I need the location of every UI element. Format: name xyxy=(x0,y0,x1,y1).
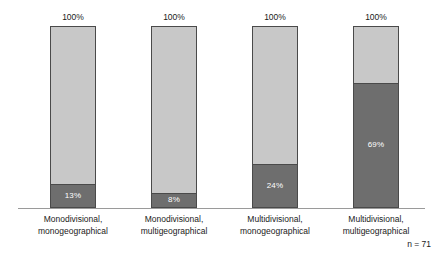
stacked-bar-chart: 100% 13% 100% 8% 100% 24% xyxy=(0,0,445,257)
category-label-3-line2: multigeographical xyxy=(306,226,445,238)
bar-segment-top-1 xyxy=(152,27,196,193)
bar-segment-top-3 xyxy=(354,27,398,83)
bar-total-label-1: 100% xyxy=(151,12,197,22)
bar-segment-bottom-1: 8% xyxy=(152,193,196,207)
bar-1[interactable]: 8% xyxy=(151,26,197,208)
bar-total-label-2: 100% xyxy=(252,12,298,22)
bar-group-1: 100% 8% xyxy=(151,26,197,208)
bar-0[interactable]: 13% xyxy=(50,26,96,208)
bar-segment-top-2 xyxy=(253,27,297,164)
bar-group-0: 100% 13% xyxy=(50,26,96,208)
bar-group-2: 100% 24% xyxy=(252,26,298,208)
sample-size-annotation: n = 71 xyxy=(407,239,431,249)
bar-2[interactable]: 24% xyxy=(252,26,298,208)
bar-segment-bottom-3: 69% xyxy=(354,83,398,207)
bar-total-label-0: 100% xyxy=(50,12,96,22)
plot-area: 100% 13% 100% 8% 100% 24% xyxy=(0,0,445,212)
bar-segment-value-3: 69% xyxy=(368,141,385,149)
bar-segment-bottom-2: 24% xyxy=(253,164,297,207)
bar-segment-value-0: 13% xyxy=(65,192,82,200)
bar-segment-bottom-0: 13% xyxy=(51,184,95,207)
bar-3[interactable]: 69% xyxy=(353,26,399,208)
category-label-3-line1: Multidivisional, xyxy=(306,214,445,226)
bar-total-label-3: 100% xyxy=(353,12,399,22)
x-axis-line xyxy=(18,208,425,209)
bar-segment-value-2: 24% xyxy=(267,182,284,190)
bar-group-3: 100% 69% xyxy=(353,26,399,208)
bar-segment-top-0 xyxy=(51,27,95,184)
category-label-3: Multidivisional, multigeographical xyxy=(306,214,445,237)
bar-segment-value-1: 8% xyxy=(168,196,180,204)
